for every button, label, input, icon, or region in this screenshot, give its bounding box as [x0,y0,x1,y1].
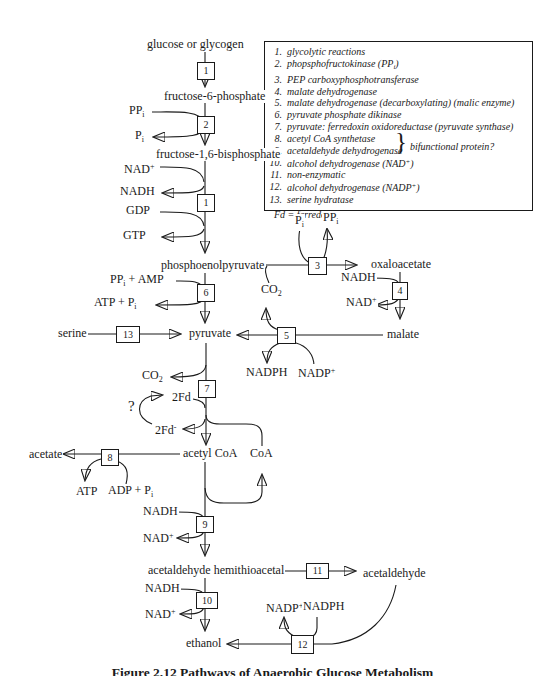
metabolite-phosphoenolpyruvate: phosphoenolpyruvate [160,259,265,272]
legend-item-text: alcohol dehydrogenase (NAD+) [287,157,414,170]
cofactor-atp-box8: ATP [75,485,98,498]
legend-footnote: Fd = ferredoxin [265,209,532,220]
legend-item-text: phopsphofructokinase (PPi) [287,58,399,74]
edge-nad-in-box1 [160,167,204,182]
cofactor-gtp-box1: GTP [122,229,147,242]
legend-item-text: acetaldehyde dehydrogenase [287,145,402,157]
cofactor-nadph-box5: NADPH [245,366,288,379]
cofactor-co2-box7: CO2 [141,369,164,386]
cofactor-gdp-box1: GDP [125,204,151,217]
cofactor-adp-pi-box8: ADP + Pi [107,484,154,501]
legend-item-number: 3. [265,74,282,86]
edge-nadp-out-box12 [284,618,294,636]
legend-item: 1.glycolytic reactions [265,46,532,58]
cofactor-atp-pi-box6: ATP + Pi [93,296,138,313]
enzyme-box-10-adh-nad: 10 [196,592,218,609]
cofactor-nad-box9: NAD+ [142,529,175,545]
enzyme-box-4-malate-dehydrogenase: 4 [392,282,408,300]
edge-fd-in-box7 [193,399,205,408]
legend-item-text: glycolytic reactions [287,46,365,58]
cofactor-ppi-box2: PPi [128,104,146,121]
enzyme-box-13-serine-hydratase: 13 [116,326,140,343]
cofactor-nad-box4: NAD+ [345,293,378,309]
legend-item-number: 12. [265,181,282,194]
legend-item-number: 6. [265,109,282,121]
cofactor-nadh-box10: NADH [144,582,181,595]
metabolite-acetaldehyde-hemithioacetal: acetaldehyde hemithioacetal [147,564,285,577]
cofactor-nad-box10: NAD+ [144,605,177,621]
metabolite-acetyl-coa: acetyl CoA [182,447,238,460]
legend-item: 11.non-enzymatic [265,169,532,181]
cofactor-pi-box3: Pi [294,214,305,231]
legend-item: 10.alcohol dehydrogenase (NAD+) [265,157,532,170]
enzyme-box-8-acetyl-coa-synthetase: 8 [101,449,119,466]
cofactor-pi-box2: Pi [134,129,145,146]
enzyme-box-2-pfk: 2 [197,116,215,134]
legend-rows: 1.glycolytic reactions 2.phopsphofructok… [265,42,532,206]
legend-item-number: 2. [265,58,282,74]
enzyme-box-1-glycolysis-upper: 1 [197,62,215,80]
figure-caption: Figure 2.12 Pathways of Anaerobic Glucos… [0,665,545,676]
edge-coa-return-lower [205,475,262,503]
edge-gtp-out-box1 [163,229,204,237]
legend-item-text: malate dehydrogenase (decarboxylating) (… [287,97,514,109]
legend-item-text: serine hydratase [287,194,353,206]
legend-item: 6.pyruvate phosphate dikinase [265,109,532,121]
edge-co2-out-box7 [172,365,206,377]
cofactor-nadph-box12: NADPH [302,600,345,613]
enzyme-box-12-adh-nadp: 12 [291,635,314,654]
legend-item: 3.PEP carboxyphosphotransferase [265,74,532,86]
cofactor-ferredoxin-oxidized: 2Fd [171,391,192,404]
legend-item: 4.malate dehydrogenase [265,86,532,98]
cofactor-nadp-box5: NADP+ [297,364,336,380]
enzyme-box-1-glycolysis-lower: 1 [197,194,215,212]
legend-item-text: acetyl CoA synthetase [287,133,375,145]
legend-item-text: PEP carboxyphosphotransferase [287,74,419,86]
metabolite-acetaldehyde: acetaldehyde [362,567,427,580]
legend-item-number: 8. [265,133,282,145]
legend-item-text: pyruvate phosphate dikinase [287,109,401,121]
legend-item-text: non-enzymatic [287,169,345,181]
edge-co2-in-box3 [265,266,269,283]
cofactor-nadp-box12: NADP+ [265,599,304,615]
edge-nadph-out-box5 [267,343,280,362]
edge-nadh-out-box1 [163,186,204,193]
edge-gdp-in-box1 [160,212,204,226]
pathway-figure: 1.glycolytic reactions 2.phopsphofructok… [0,0,545,676]
enzyme-legend: 1.glycolytic reactions 2.phopsphofructok… [264,41,533,211]
metabolite-coa: CoA [249,447,274,460]
legend-item-text: malate dehydrogenase [287,86,377,98]
legend-item-text: alcohol dehydrogenase (NADP+) [287,181,420,194]
metabolite-acetate: acetate [28,448,63,461]
enzyme-box-6-ppdk: 6 [197,284,215,302]
metabolite-ethanol: ethanol [185,637,222,650]
bifunctional-note: bifunctional protein? [410,141,494,152]
bifunctional-brace: } [395,129,407,154]
metabolite-fructose-6-phosphate: fructose-6-phosphate [163,90,266,103]
legend-item-number: 11. [265,169,282,181]
enzyme-box-7-pyruvate-synthase: 7 [198,380,216,398]
edge-acetaldehyde-to-box12 [313,585,396,644]
metabolite-glucose-or-glycogen: glucose or glycogen [146,38,245,51]
cofactor-nad-box1: NAD+ [123,160,156,176]
metabolite-pyruvate: pyruvate [188,327,232,340]
cofactor-nadh-box1: NADH [119,185,156,198]
cofactor-co2-box3: CO2 [260,283,283,300]
legend-item-number: 13. [265,194,282,206]
legend-item-number: 4. [265,86,282,98]
metabolite-serine: serine [57,327,88,340]
metabolite-oxaloacetate: oxaloacetate [370,258,432,271]
legend-item: 5.malate dehydrogenase (decarboxylating)… [265,97,532,109]
legend-item: 13.serine hydratase [265,194,532,206]
edge-nadp-in-box5 [296,343,314,366]
enzyme-box-9-acetaldehyde-dehydrogenase: 9 [196,516,214,533]
legend-item-number: 5. [265,97,282,109]
cofactor-ppi-amp-box6: PPi + AMP [109,273,165,290]
edge-ferredoxin-cycle [140,395,163,424]
enzyme-box-11-non-enzymatic: 11 [306,563,329,579]
legend-item-number: 1. [265,46,282,58]
enzyme-box-3-pep-carboxyphosphotransferase: 3 [308,257,327,275]
legend-item-number: 7. [265,121,282,133]
metabolite-fructose-16-bisphosphate: fructose-1,6-bisphosphate [155,148,281,161]
cofactor-ferredoxin-reduced: 2Fd- [154,421,177,437]
